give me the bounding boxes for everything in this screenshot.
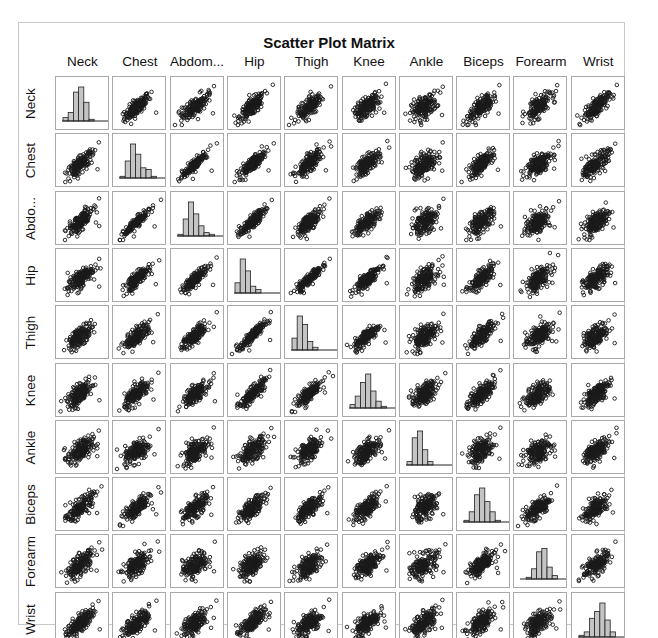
histogram-panel <box>227 248 281 302</box>
scatter-panel <box>170 534 224 588</box>
scatter-panel <box>399 133 453 187</box>
scatter-panel <box>55 363 109 417</box>
scatter-panel <box>513 420 567 474</box>
column-label: Neck <box>54 54 111 69</box>
histogram-panel <box>399 420 453 474</box>
column-label: Abdom... <box>169 54 226 69</box>
scatter-panel <box>55 534 109 588</box>
scatter-panel <box>513 592 567 638</box>
scatter-panel <box>513 191 567 245</box>
scatter-panel <box>170 133 224 187</box>
scatter-panel <box>342 248 396 302</box>
scatter-panel <box>55 477 109 531</box>
scatter-panel <box>227 534 281 588</box>
row-label: Abdo... <box>23 190 45 247</box>
scatter-panel <box>456 534 510 588</box>
row-label: Ankle <box>23 419 45 476</box>
column-label: Forearm <box>512 54 569 69</box>
histogram-panel <box>571 592 625 638</box>
scatter-panel <box>112 191 166 245</box>
row-label: Biceps <box>23 476 45 533</box>
scatter-panel <box>284 363 338 417</box>
scatter-panel <box>571 76 625 130</box>
column-label: Thigh <box>283 54 340 69</box>
scatter-panel <box>399 305 453 359</box>
scatter-panel <box>571 534 625 588</box>
scatter-panel <box>456 76 510 130</box>
scatter-panel <box>112 477 166 531</box>
scatter-panel <box>456 133 510 187</box>
scatter-panel <box>342 76 396 130</box>
scatter-panel <box>112 420 166 474</box>
scatter-panel <box>112 305 166 359</box>
scatter-panel <box>342 133 396 187</box>
row-label: Forearm <box>23 533 45 590</box>
scatter-panel <box>227 592 281 638</box>
scatter-panel <box>227 191 281 245</box>
scatter-panel <box>170 592 224 638</box>
row-label: Neck <box>23 75 45 132</box>
scatter-panel <box>112 76 166 130</box>
scatter-panel <box>227 133 281 187</box>
scatter-panel <box>227 305 281 359</box>
scatter-panel <box>571 133 625 187</box>
scatter-panel <box>399 191 453 245</box>
scatter-panel <box>170 248 224 302</box>
row-label: Wrist <box>23 591 45 638</box>
scatter-panel <box>284 76 338 130</box>
scatter-panel <box>456 420 510 474</box>
column-label: Ankle <box>398 54 455 69</box>
histogram-panel <box>55 76 109 130</box>
histogram-panel <box>284 305 338 359</box>
histogram-panel <box>112 133 166 187</box>
scatter-panel <box>571 305 625 359</box>
scatter-panel <box>342 592 396 638</box>
scatter-panel <box>342 477 396 531</box>
scatter-panel <box>112 534 166 588</box>
scatter-panel <box>284 420 338 474</box>
scatter-panel <box>55 133 109 187</box>
scatter-panel <box>342 534 396 588</box>
scatter-panel <box>112 592 166 638</box>
row-label: Chest <box>23 132 45 189</box>
scatter-panel <box>456 191 510 245</box>
scatter-panel <box>399 76 453 130</box>
scatter-panel <box>399 592 453 638</box>
scatter-panel <box>170 76 224 130</box>
row-label: Hip <box>23 247 45 304</box>
scatter-panel <box>342 305 396 359</box>
scatter-panel <box>399 248 453 302</box>
scatter-panel <box>571 363 625 417</box>
scatter-panel <box>456 363 510 417</box>
scatter-panel <box>112 248 166 302</box>
scatter-panel <box>513 363 567 417</box>
histogram-panel <box>513 534 567 588</box>
scatter-panel <box>55 305 109 359</box>
scatter-panel <box>456 305 510 359</box>
scatter-panel <box>170 477 224 531</box>
scatter-panel <box>399 534 453 588</box>
chart-title: Scatter Plot Matrix <box>0 34 658 51</box>
scatter-panel <box>456 248 510 302</box>
scatter-panel <box>55 592 109 638</box>
scatter-panel <box>284 477 338 531</box>
scatter-panel <box>112 363 166 417</box>
scatter-panel <box>571 191 625 245</box>
column-label: Chest <box>111 54 168 69</box>
scatter-panel <box>284 534 338 588</box>
scatter-panel <box>513 477 567 531</box>
histogram-panel <box>456 477 510 531</box>
scatter-panel <box>571 420 625 474</box>
scatter-panel <box>342 191 396 245</box>
scatter-panel <box>227 477 281 531</box>
column-label: Biceps <box>455 54 512 69</box>
scatter-panel <box>571 477 625 531</box>
scatter-panel <box>170 305 224 359</box>
scatter-panel <box>513 133 567 187</box>
scatter-panel <box>55 191 109 245</box>
scatter-panel <box>571 248 625 302</box>
scatter-panel <box>284 248 338 302</box>
scatter-panel <box>284 133 338 187</box>
row-label: Thigh <box>23 304 45 361</box>
scatter-panel <box>513 76 567 130</box>
